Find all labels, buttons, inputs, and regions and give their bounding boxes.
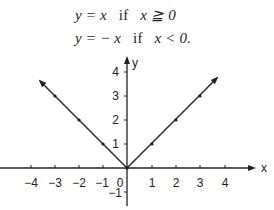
x-axis-label: x [261,161,267,175]
y-tick-label: 4 [112,65,119,79]
x-tick-label: −3 [48,176,62,190]
y-axis-label: y [132,56,138,70]
x-tick-label: −2 [72,176,86,190]
y-tick-label: 1 [112,137,119,151]
x-tick-label: 1 [149,176,156,190]
x-tick-label: −1 [95,176,109,190]
y-tick-label: −1 [108,186,122,200]
x-tick-label: 3 [197,176,204,190]
y-tick-label: 2 [112,113,119,127]
absolute-value-graph: −4 −3 −2 −1 0 1 2 3 4 4 3 2 1 −1 x y [0,0,274,210]
x-tick-label: 2 [173,176,180,190]
line-y-x [127,78,217,168]
y-tick-label: 3 [112,89,119,103]
x-tick-label: 4 [222,176,229,190]
x-tick-label: −4 [24,176,38,190]
